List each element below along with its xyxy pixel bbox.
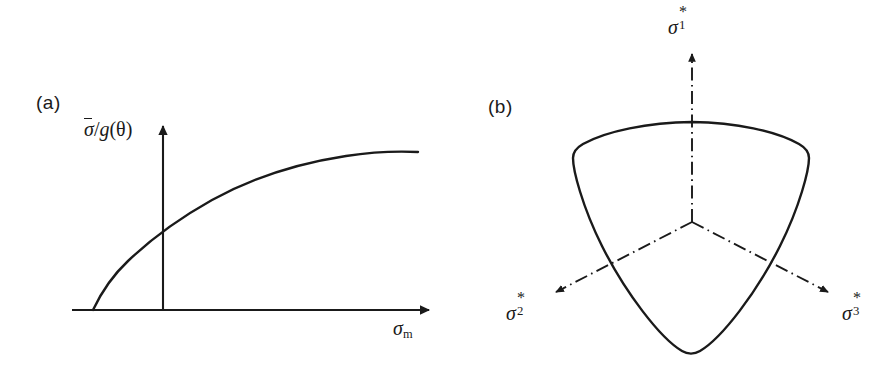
- sigma-m-subscript: m: [403, 327, 413, 341]
- panel-b-axis-sigma2: [556, 222, 692, 292]
- panel-a-tag: (a): [36, 93, 61, 112]
- panel-b-graphics: [556, 54, 828, 354]
- figure-canvas: [0, 0, 887, 368]
- g-function-symbol: g: [99, 118, 109, 140]
- sigma3-subscript: 3: [853, 305, 859, 318]
- paren-close: ): [126, 118, 133, 140]
- sigma-symbol: σ: [842, 302, 852, 324]
- panel-a-graphics: [72, 126, 429, 310]
- sigma-symbol: σ: [668, 16, 678, 38]
- sigma-bar-symbol: σ: [84, 119, 94, 139]
- panel-a-yield-curve: [93, 152, 418, 310]
- panel-b-axis-label-sigma1: σ*1: [668, 14, 678, 37]
- sigma2-subscript: 2: [517, 305, 523, 318]
- panel-b-axis-label-sigma2: σ*2: [506, 300, 516, 323]
- sigma-symbol: σ: [506, 302, 516, 324]
- panel-b-tag: (b): [488, 97, 513, 116]
- sigma-symbol: σ: [393, 317, 403, 339]
- theta-symbol: θ: [116, 118, 126, 140]
- sigma1-subscript: 1: [679, 19, 685, 32]
- panel-a-y-axis-label: σ/g(θ): [84, 119, 132, 139]
- panel-a-x-axis-label: σm: [393, 318, 413, 341]
- figure-root: (a) σ/g(θ) σm (b) σ*1 σ*2 σ*3: [0, 0, 887, 368]
- panel-b-axis-label-sigma3: σ*3: [842, 300, 852, 323]
- panel-b-yield-surface: [573, 122, 809, 354]
